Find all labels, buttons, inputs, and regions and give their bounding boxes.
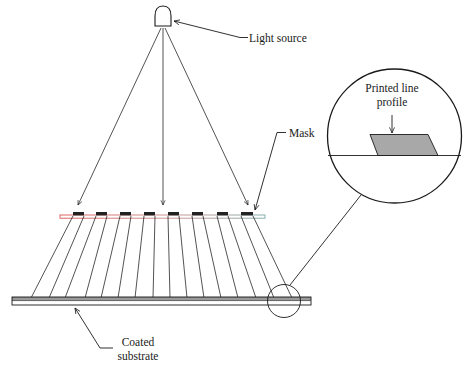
light-source xyxy=(155,6,171,26)
mask-callout: Mask xyxy=(255,127,315,210)
detail-view: Printed line profile xyxy=(328,69,462,203)
coated-substrate-callout: Coated substrate xyxy=(75,308,158,362)
transmitted-rays xyxy=(31,216,292,298)
printed-line-profile-shape xyxy=(370,135,438,156)
coated-substrate-label-line1: Coated xyxy=(122,336,155,348)
coated-substrate-label-line2: substrate xyxy=(118,350,159,362)
coated-substrate xyxy=(12,297,311,305)
mask-plate xyxy=(60,215,265,218)
profile-label-line1: Printed line xyxy=(365,82,418,94)
light-source-callout: Light source xyxy=(174,21,307,45)
mask xyxy=(60,212,265,218)
mask-label: Mask xyxy=(289,127,315,139)
coating-layer xyxy=(13,298,311,301)
photolithography-diagram: Light source Mask xyxy=(0,0,472,369)
lamp-dome-icon xyxy=(155,6,171,26)
light-source-label: Light source xyxy=(249,32,307,45)
incident-rays xyxy=(78,28,248,205)
profile-label-line2: profile xyxy=(377,96,408,109)
